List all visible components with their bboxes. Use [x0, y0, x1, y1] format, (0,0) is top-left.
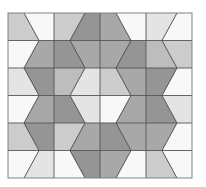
- puzzle-board[interactable]: [0, 0, 206, 187]
